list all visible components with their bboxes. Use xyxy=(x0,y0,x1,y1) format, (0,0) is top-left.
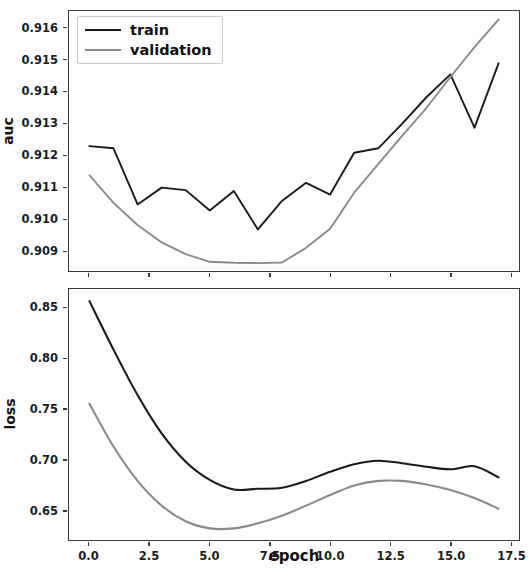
y-tick-mark xyxy=(63,358,67,359)
x-axis-title: epoch xyxy=(269,547,320,565)
loss-y-axis-title: loss xyxy=(2,398,18,429)
y-tick-label: 0.909 xyxy=(0,244,58,258)
legend-entry-validation: validation xyxy=(85,42,212,58)
y-tick-mark xyxy=(63,155,67,156)
x-tick-mark xyxy=(450,273,451,277)
x-tick-mark xyxy=(148,542,149,546)
legend-swatch-validation xyxy=(85,49,121,51)
x-tick-mark xyxy=(209,542,210,546)
y-tick-mark xyxy=(63,27,67,28)
series-line-validation xyxy=(89,404,498,530)
x-tick-mark xyxy=(88,273,89,277)
y-tick-label: 0.910 xyxy=(0,212,58,226)
x-tick-mark xyxy=(390,273,391,277)
y-tick-label: 0.80 xyxy=(0,351,58,365)
y-tick-label: 0.85 xyxy=(0,300,58,314)
y-tick-mark xyxy=(63,187,67,188)
y-tick-label: 0.911 xyxy=(0,180,58,194)
y-tick-mark xyxy=(63,91,67,92)
x-tick-mark xyxy=(209,273,210,277)
x-tick-label: 2.5 xyxy=(139,549,159,563)
y-tick-label: 0.914 xyxy=(0,84,58,98)
x-tick-label: 17.5 xyxy=(497,549,525,563)
x-tick-mark xyxy=(511,542,512,546)
x-tick-label: 5.0 xyxy=(199,549,219,563)
legend-entry-train: train xyxy=(85,22,212,38)
x-tick-mark xyxy=(450,542,451,546)
y-tick-mark xyxy=(63,59,67,60)
figure-canvas: 0.9090.9100.9110.9120.9130.9140.9150.916… xyxy=(0,0,531,576)
x-tick-mark xyxy=(330,273,331,277)
y-tick-mark xyxy=(63,408,67,409)
y-tick-mark xyxy=(63,219,67,220)
y-tick-mark xyxy=(63,510,67,511)
x-tick-label: 0.0 xyxy=(78,549,98,563)
series-line-train xyxy=(89,301,498,490)
x-tick-mark xyxy=(511,273,512,277)
legend-swatch-train xyxy=(85,29,121,31)
y-tick-mark xyxy=(63,459,67,460)
loss-plot-svg xyxy=(69,289,519,540)
x-tick-mark xyxy=(330,542,331,546)
y-tick-mark xyxy=(63,307,67,308)
x-tick-mark xyxy=(148,273,149,277)
y-tick-label: 0.915 xyxy=(0,53,58,67)
chart-legend: train validation xyxy=(77,16,223,64)
series-line-train xyxy=(89,63,498,229)
x-tick-mark xyxy=(269,542,270,546)
y-tick-label: 0.912 xyxy=(0,148,58,162)
loss-plot-axes xyxy=(68,288,520,541)
y-tick-mark xyxy=(63,251,67,252)
auc-y-axis-title: auc xyxy=(0,117,16,145)
y-tick-label: 0.916 xyxy=(0,21,58,35)
legend-label-validation: validation xyxy=(130,42,212,58)
legend-label-train: train xyxy=(130,22,169,38)
x-tick-label: 10.0 xyxy=(316,549,344,563)
x-tick-mark xyxy=(88,542,89,546)
x-tick-label: 12.5 xyxy=(376,549,404,563)
x-tick-label: 15.0 xyxy=(437,549,465,563)
x-tick-mark xyxy=(269,273,270,277)
x-tick-mark xyxy=(390,542,391,546)
y-tick-label: 0.65 xyxy=(0,504,58,518)
y-tick-mark xyxy=(63,123,67,124)
y-tick-label: 0.70 xyxy=(0,453,58,467)
